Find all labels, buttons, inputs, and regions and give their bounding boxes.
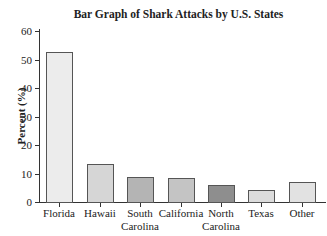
y-tick xyxy=(35,60,39,61)
x-tick-label: Other xyxy=(272,207,327,220)
chart-title: Bar Graph of Shark Attacks by U.S. State… xyxy=(0,8,327,20)
y-tick xyxy=(35,202,39,203)
y-tick xyxy=(35,117,39,118)
bar-california xyxy=(168,178,195,203)
y-tick-label: 40 xyxy=(6,82,32,94)
bar-texas xyxy=(248,190,275,203)
y-tick-label: 60 xyxy=(6,25,32,37)
bar-hawaii xyxy=(87,164,114,203)
y-tick-label: 10 xyxy=(6,168,32,180)
bar-florida xyxy=(46,52,73,203)
bar-north-carolina xyxy=(208,185,235,203)
y-axis xyxy=(39,29,40,203)
y-tick-label: 30 xyxy=(6,111,32,123)
bar-other xyxy=(289,182,316,203)
y-tick-label: 20 xyxy=(6,139,32,151)
y-tick xyxy=(35,88,39,89)
y-tick xyxy=(35,145,39,146)
y-tick-label: 50 xyxy=(6,54,32,66)
y-tick xyxy=(35,31,39,32)
bar-south-carolina xyxy=(127,177,154,203)
y-tick xyxy=(35,174,39,175)
